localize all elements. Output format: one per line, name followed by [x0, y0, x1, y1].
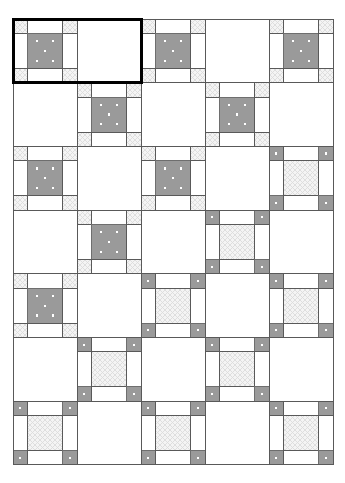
quilt-block[interactable]: [205, 274, 269, 338]
quilt-block[interactable]: [269, 83, 333, 147]
quilt-block[interactable]: [205, 401, 269, 465]
blocks-layer: [13, 19, 333, 465]
quilt-block[interactable]: [141, 274, 205, 338]
quilt-block[interactable]: [269, 146, 333, 210]
quilt-block[interactable]: [141, 19, 205, 83]
quilt-block[interactable]: [77, 210, 141, 274]
quilt-block[interactable]: [269, 210, 333, 274]
quilt-block[interactable]: [269, 401, 333, 465]
quilt-layout-app: Quilt Block Layout: [0, 0, 345, 483]
quilt-block[interactable]: [13, 146, 77, 210]
quilt-block[interactable]: [141, 83, 205, 147]
quilt-block[interactable]: [141, 401, 205, 465]
quilt-block[interactable]: [77, 146, 141, 210]
quilt-block[interactable]: [205, 210, 269, 274]
quilt-block[interactable]: [13, 83, 77, 147]
quilt-block[interactable]: [205, 338, 269, 402]
quilt-block[interactable]: [13, 401, 77, 465]
quilt-block[interactable]: [77, 19, 141, 83]
quilt-block[interactable]: [205, 19, 269, 83]
quilt-block[interactable]: [13, 274, 77, 338]
quilt-block[interactable]: [13, 338, 77, 402]
quilt-block[interactable]: [269, 19, 333, 83]
quilt-block[interactable]: [77, 338, 141, 402]
quilt-block[interactable]: [77, 83, 141, 147]
quilt-block[interactable]: [13, 19, 77, 83]
quilt-block[interactable]: [269, 274, 333, 338]
quilt-block[interactable]: [141, 210, 205, 274]
quilt-block[interactable]: [205, 146, 269, 210]
quilt-block[interactable]: [205, 83, 269, 147]
quilt-block[interactable]: [77, 401, 141, 465]
quilt-block[interactable]: [269, 338, 333, 402]
quilt-block[interactable]: [77, 274, 141, 338]
quilt-block[interactable]: [141, 146, 205, 210]
quilt-block[interactable]: [13, 210, 77, 274]
quilt-grid-canvas[interactable]: [0, 0, 345, 483]
quilt-block[interactable]: [141, 338, 205, 402]
